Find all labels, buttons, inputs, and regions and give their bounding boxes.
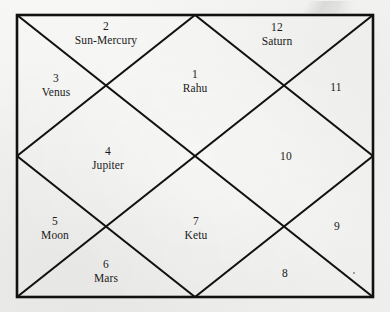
house-9-number: 9 (334, 220, 340, 234)
house-3-planets: Venus (42, 86, 71, 100)
house-4-number: 4 (92, 145, 124, 159)
house-8[interactable]: 8 (282, 267, 288, 281)
house-7[interactable]: 7 Ketu (185, 215, 208, 242)
house-6-planets: Mars (94, 272, 118, 286)
house-1-number: 1 (183, 68, 208, 82)
house-9[interactable]: 9 (334, 220, 340, 234)
house-10-number: 10 (280, 150, 292, 164)
house-2[interactable]: 2 Sun-Mercury (75, 20, 137, 47)
house-5-number: 5 (41, 215, 69, 229)
house-5[interactable]: 5 Moon (41, 215, 69, 242)
house-5-planets: Moon (41, 229, 69, 243)
house-3-number: 3 (42, 72, 71, 86)
house-6-number: 6 (94, 258, 118, 272)
house-12[interactable]: 12 Saturn (262, 21, 293, 48)
house-12-number: 12 (262, 21, 293, 35)
house-10[interactable]: 10 (280, 150, 292, 164)
house-1[interactable]: 1 Rahu (183, 68, 208, 95)
house-4[interactable]: 4 Jupiter (92, 145, 124, 172)
house-4-planets: Jupiter (92, 159, 124, 173)
house-11-number: 11 (330, 81, 341, 95)
house-3[interactable]: 3 Venus (42, 72, 71, 99)
birth-chart: 1 Rahu 2 Sun-Mercury 3 Venus 4 Jupiter 5… (0, 0, 390, 312)
house-7-planets: Ketu (185, 229, 208, 243)
house-11[interactable]: 11 (330, 81, 341, 95)
chart-grid-svg (0, 0, 390, 312)
house-12-planets: Saturn (262, 35, 293, 49)
house-2-number: 2 (75, 20, 137, 34)
house-2-planets: Sun-Mercury (75, 34, 137, 48)
house-1-planets: Rahu (183, 82, 208, 96)
house-7-number: 7 (185, 215, 208, 229)
house-6[interactable]: 6 Mars (94, 258, 118, 285)
house-8-number: 8 (282, 267, 288, 281)
